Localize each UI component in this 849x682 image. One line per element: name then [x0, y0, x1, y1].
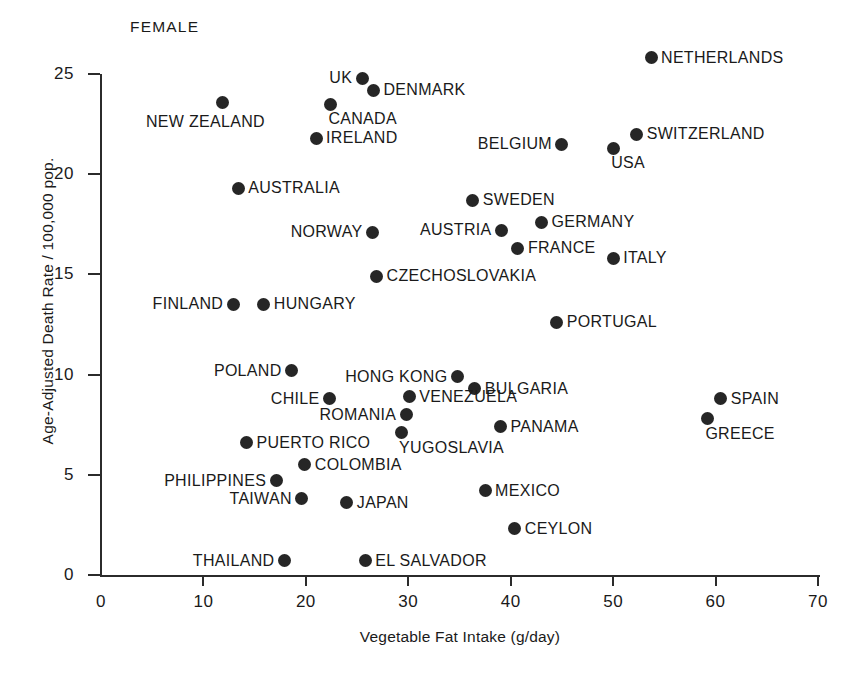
data-point	[400, 408, 413, 421]
data-point	[340, 496, 353, 509]
data-point-label: PHILIPPINES	[164, 473, 266, 489]
series-label: FEMALE	[130, 18, 199, 36]
data-point	[701, 412, 714, 425]
data-point	[285, 364, 298, 377]
x-tick-mark	[715, 575, 717, 586]
data-point-label: USA	[611, 155, 645, 171]
y-tick-mark	[88, 474, 100, 476]
x-tick-label: 50	[593, 592, 633, 612]
data-point-label: CANADA	[328, 111, 396, 127]
data-point-label: CZECHOSLOVAKIA	[387, 268, 537, 284]
data-point-label: FRANCE	[528, 240, 596, 256]
data-point	[714, 392, 727, 405]
data-point	[607, 142, 620, 155]
x-tick-mark	[612, 575, 614, 586]
data-point-label: UK	[329, 70, 352, 86]
data-point	[403, 390, 416, 403]
data-point-label: PUERTO RICO	[256, 435, 370, 451]
data-point-label: ROMANIA	[319, 407, 396, 423]
y-axis-line	[100, 74, 102, 577]
data-point-label: CHILE	[271, 391, 320, 407]
x-tick-mark	[510, 575, 512, 586]
data-point	[550, 316, 563, 329]
data-point	[367, 84, 380, 97]
data-point	[607, 252, 620, 265]
data-point	[451, 370, 464, 383]
data-point-label: NETHERLANDS	[661, 50, 783, 66]
data-point	[370, 270, 383, 283]
data-point-label: TAIWAN	[230, 491, 292, 507]
x-tick-mark	[407, 575, 409, 586]
data-point-label: GREECE	[705, 426, 774, 442]
data-point	[366, 226, 379, 239]
y-tick-label: 10	[36, 365, 74, 385]
x-tick-label: 20	[286, 592, 326, 612]
data-point	[324, 98, 337, 111]
y-tick-label: 15	[36, 264, 74, 284]
data-point	[270, 474, 283, 487]
data-point	[227, 298, 240, 311]
y-tick-label: 20	[36, 164, 74, 184]
x-tick-label: 30	[388, 592, 428, 612]
data-point	[494, 420, 507, 433]
data-point	[359, 554, 372, 567]
data-point	[310, 132, 323, 145]
data-point-label: COLOMBIA	[315, 457, 402, 473]
y-tick-mark	[88, 574, 100, 576]
y-tick-mark	[88, 173, 100, 175]
x-tick-label: 10	[183, 592, 223, 612]
data-point	[495, 224, 508, 237]
data-point-label: NORWAY	[291, 224, 363, 240]
data-point-label: POLAND	[214, 363, 282, 379]
data-point-label: THAILAND	[193, 553, 275, 569]
data-point-label: SWEDEN	[483, 192, 555, 208]
x-tick-mark	[202, 575, 204, 586]
data-point	[240, 436, 253, 449]
data-point-label: AUSTRALIA	[248, 180, 340, 196]
data-point	[630, 128, 643, 141]
x-tick-label: 40	[491, 592, 531, 612]
y-tick-label: 25	[36, 64, 74, 84]
data-point	[216, 96, 229, 109]
y-tick-mark	[88, 73, 100, 75]
data-point-label: HONG KONG	[345, 369, 447, 385]
data-point	[511, 242, 524, 255]
data-point	[395, 426, 408, 439]
y-tick-label: 0	[36, 565, 74, 585]
data-point-label: CEYLON	[525, 521, 593, 537]
x-tick-mark	[305, 575, 307, 586]
data-point	[645, 51, 658, 64]
data-point-label: SWITZERLAND	[647, 126, 765, 142]
data-point-label: PORTUGAL	[567, 314, 657, 330]
data-point	[356, 72, 369, 85]
data-point	[555, 138, 568, 151]
data-point	[232, 182, 245, 195]
data-point-label: MEXICO	[495, 483, 560, 499]
data-point-label: GERMANY	[551, 214, 634, 230]
y-tick-mark	[88, 273, 100, 275]
x-tick-label: 70	[798, 592, 838, 612]
data-point-label: FINLAND	[153, 296, 224, 312]
data-point-label: YUGOSLAVIA	[399, 440, 504, 456]
data-point-label: AUSTRIA	[420, 222, 491, 238]
data-point-label: VENEZUELA	[419, 389, 517, 405]
scatter-chart: FEMALE Age-Adjusted Death Rate / 100,000…	[0, 0, 849, 682]
data-point-label: SPAIN	[731, 391, 779, 407]
y-tick-label: 5	[36, 465, 74, 485]
data-point	[535, 216, 548, 229]
y-axis-title: Age-Adjusted Death Rate / 100,000 pop.	[39, 101, 57, 501]
x-tick-label: 0	[81, 592, 121, 612]
data-point	[508, 522, 521, 535]
data-point-label: ITALY	[623, 250, 667, 266]
data-point	[298, 458, 311, 471]
y-tick-mark	[88, 374, 100, 376]
data-point	[257, 298, 270, 311]
data-point-label: EL SALVADOR	[375, 553, 487, 569]
data-point-label: JAPAN	[357, 495, 409, 511]
data-point	[295, 492, 308, 505]
data-point	[323, 392, 336, 405]
x-tick-label: 60	[696, 592, 736, 612]
data-point-label: NEW ZEALAND	[146, 114, 265, 130]
x-axis-title: Vegetable Fat Intake (g/day)	[100, 628, 820, 646]
data-point-label: DENMARK	[383, 82, 465, 98]
